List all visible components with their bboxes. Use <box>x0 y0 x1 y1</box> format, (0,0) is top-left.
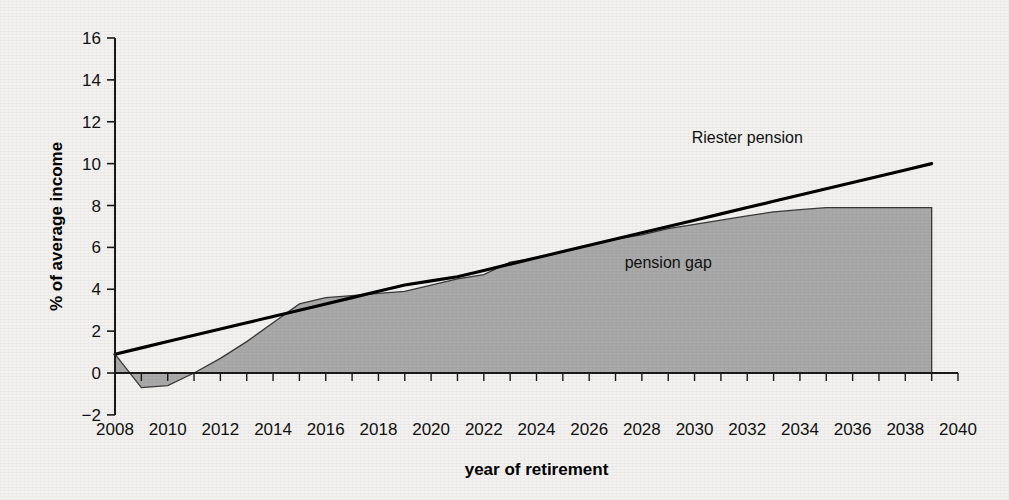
y-tick-label: 16 <box>82 29 101 48</box>
x-tick-label: 2018 <box>360 420 398 439</box>
pension-gap-chart: −20246810121416 200820102012201420162018… <box>0 0 1009 500</box>
pension-gap-area <box>115 208 932 388</box>
x-tick-label: 2038 <box>886 420 924 439</box>
y-tick-label: 8 <box>92 197 101 216</box>
x-tick-label: 2034 <box>781 420 819 439</box>
x-axis-title: year of retirement <box>465 460 609 479</box>
x-tick-label: 2022 <box>465 420 503 439</box>
x-axis-tick-labels: 2008201020122014201620182020202220242026… <box>96 420 977 439</box>
x-tick-label: 2032 <box>728 420 766 439</box>
y-tick-label: 10 <box>82 155 101 174</box>
x-tick-label: 2014 <box>254 420 292 439</box>
x-tick-label: 2030 <box>676 420 714 439</box>
y-tick-label: 12 <box>82 113 101 132</box>
y-axis-title: % of average income <box>47 142 66 311</box>
y-tick-label: 0 <box>92 364 101 383</box>
x-tick-label: 2016 <box>307 420 345 439</box>
chart-figure: −20246810121416 200820102012201420162018… <box>0 0 1009 500</box>
x-tick-label: 2028 <box>623 420 661 439</box>
y-axis-tick-labels: −20246810121416 <box>82 29 101 425</box>
riester-pension-label: Riester pension <box>692 129 803 146</box>
y-tick-label: 6 <box>92 238 101 257</box>
x-tick-label: 2020 <box>412 420 450 439</box>
x-tick-label: 2024 <box>518 420 556 439</box>
x-tick-label: 2040 <box>939 420 977 439</box>
pension-gap-label: pension gap <box>625 254 712 271</box>
x-tick-label: 2036 <box>834 420 872 439</box>
x-tick-label: 2026 <box>570 420 608 439</box>
y-tick-label: 2 <box>92 322 101 341</box>
x-tick-label: 2008 <box>96 420 134 439</box>
y-tick-label: 14 <box>82 71 101 90</box>
x-tick-label: 2012 <box>201 420 239 439</box>
y-tick-label: 4 <box>92 280 101 299</box>
x-tick-label: 2010 <box>149 420 187 439</box>
